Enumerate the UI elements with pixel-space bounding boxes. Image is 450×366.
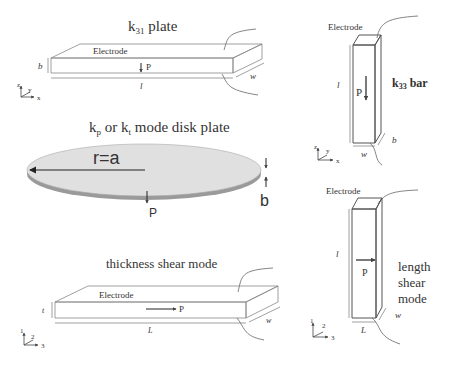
ts-electrode-label: Electrode [99, 290, 133, 300]
k33-thickness-label: b [392, 135, 397, 145]
svg-text:z: z [17, 81, 20, 89]
svg-text:3: 3 [41, 342, 45, 350]
k33-width-label: w [361, 149, 367, 159]
k31-plate-title: k31 plate [128, 18, 178, 36]
piezo-mode-diagrams: k31 plate Electrode P b l w z y x kp or … [0, 0, 450, 366]
ls-polarization-label: P [362, 267, 368, 278]
k31-electrode-label: Electrode [93, 46, 127, 56]
thickness-shear-title: thickness shear mode [106, 256, 217, 271]
k31-thickness-label: b [38, 61, 43, 71]
ls-thickness-label: w [395, 310, 401, 320]
ts-polarization-label: P [179, 304, 184, 314]
ts-top-face [55, 286, 278, 302]
ts-top-wire [238, 268, 273, 292]
disk-polarization-label: P [149, 206, 157, 220]
ls-front-face [352, 209, 376, 318]
ls-electrode-label: Electrode [326, 186, 360, 196]
k33-bar-diagram: Electrode P l w b k33 bar z y x [314, 16, 428, 165]
svg-text:2: 2 [31, 333, 35, 341]
ts-side-face [246, 286, 278, 318]
ls-bottom-wire [372, 318, 400, 344]
ts-width-label: w [266, 316, 272, 325]
k33-axes-icon: z y x [314, 143, 340, 165]
k31-plate-diagram: k31 plate Electrode P b l w z y x [17, 18, 264, 102]
ls-length-label: l [336, 249, 339, 259]
disk-thickness-label: b [260, 192, 269, 209]
k33-bar-title: k33 bar [392, 76, 428, 91]
disk-radius-label: r=a [93, 148, 121, 168]
length-shear-diagram: Electrode P l L w length shear mode 1 2 … [310, 186, 431, 344]
k33-thickness-dim [378, 133, 385, 145]
svg-text:x: x [37, 94, 41, 102]
svg-text:1: 1 [20, 327, 24, 335]
k31-front-face [51, 58, 233, 73]
k31-top-face [51, 44, 262, 58]
k31-top-wire [224, 29, 256, 50]
ts-length-label: L [147, 326, 153, 335]
ls-side-face [376, 198, 382, 318]
svg-text:1: 1 [310, 317, 314, 325]
svg-text:y: y [28, 86, 32, 94]
ts-thickness-label: t [42, 306, 45, 315]
k33-top-wire [377, 16, 418, 38]
ls-title-line-2: shear [398, 275, 426, 290]
ls-axes-icon: 1 2 3 [310, 317, 335, 342]
svg-text:y: y [326, 147, 330, 155]
k33-side-face [375, 35, 381, 143]
ls-title-line-1: length [398, 259, 431, 274]
ls-top-face [352, 198, 382, 209]
svg-text:2: 2 [322, 322, 326, 330]
k33-top-face [353, 35, 381, 45]
k33-polarization-label: P [356, 86, 362, 98]
k31-length-label: l [140, 81, 143, 91]
ls-title-line-3: mode [398, 291, 427, 306]
thickness-shear-diagram: thickness shear mode Electrode P t L w 1… [20, 256, 280, 350]
k31-polarization-label: P [146, 62, 151, 72]
k31-width-label: w [250, 71, 256, 81]
svg-text:3: 3 [331, 334, 335, 342]
k33-electrode-label: Electrode [328, 22, 362, 32]
k33-length-label: l [337, 80, 340, 90]
k31-side-face [233, 44, 262, 73]
disk-plate-diagram: kp or kt mode disk plate r=a P b [27, 119, 269, 220]
ls-width-label: L [360, 325, 366, 335]
disk-plate-title: kp or kt mode disk plate [89, 119, 230, 137]
svg-text:x: x [336, 157, 340, 165]
ts-axes-icon: 1 2 3 [20, 327, 45, 350]
ts-front-face [55, 302, 246, 318]
svg-text:z: z [314, 143, 317, 151]
ls-top-wire [378, 190, 418, 204]
k31-axes-icon: z y x [17, 81, 41, 102]
